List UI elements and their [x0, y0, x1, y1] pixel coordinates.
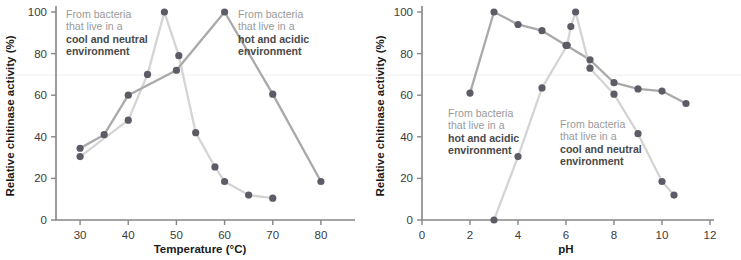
data-point-hot-acidic — [173, 67, 180, 74]
x-axis-tick-label: 70 — [266, 229, 279, 241]
data-point-hot-acidic — [221, 8, 228, 15]
y-axis-tick-label: 20 — [400, 172, 413, 184]
data-point-cool-neutral — [567, 23, 574, 30]
y-axis-tick-label: 60 — [34, 89, 47, 101]
annotation-line: From bacteria — [448, 107, 513, 119]
data-point-hot-acidic — [682, 100, 689, 107]
data-point-cool-neutral — [175, 52, 182, 59]
data-point-hot-acidic — [125, 92, 132, 99]
x-axis-tick-label: 40 — [122, 229, 135, 241]
data-point-cool-neutral — [670, 191, 677, 198]
figure-container: 020406080100304050607080Temperature (°C)… — [0, 0, 741, 260]
data-point-hot-acidic — [538, 27, 545, 34]
data-point-cool-neutral — [161, 8, 168, 15]
annotation-line: From bacteria — [560, 118, 625, 130]
x-axis-title: pH — [558, 243, 573, 255]
y-axis-tick-label: 80 — [34, 48, 47, 60]
y-axis-tick-label: 20 — [34, 172, 47, 184]
chart-panel-ph: 020406080100024681012pHRelative chitinas… — [370, 0, 741, 260]
data-point-cool-neutral — [514, 153, 521, 160]
x-axis-tick-label: 8 — [611, 229, 617, 241]
annotation-line: hot and acidic — [448, 132, 519, 144]
annotation-line: that live in a — [66, 20, 123, 32]
data-point-cool-neutral — [221, 178, 228, 185]
annotation-line: environment — [238, 45, 302, 57]
y-axis-tick-label: 40 — [400, 131, 413, 143]
data-point-cool-neutral — [610, 91, 617, 98]
data-point-hot-acidic — [317, 178, 324, 185]
data-point-cool-neutral — [634, 130, 641, 137]
x-axis-tick-label: 10 — [656, 229, 669, 241]
x-axis-title: Temperature (°C) — [154, 243, 247, 255]
data-point-cool-neutral — [76, 153, 83, 160]
data-point-cool-neutral — [572, 8, 579, 15]
data-point-cool-neutral — [658, 178, 665, 185]
data-point-hot-acidic — [490, 8, 497, 15]
y-axis-title: Relative chitinase activity (%) — [4, 35, 16, 196]
x-axis-tick-label: 50 — [170, 229, 183, 241]
data-point-hot-acidic — [634, 85, 641, 92]
annotation-cool-neutral: From bacteriathat live in acool and neut… — [66, 8, 148, 57]
data-point-hot-acidic — [76, 145, 83, 152]
annotation-hot-acidic: From bacteriathat live in ahot and acidi… — [238, 8, 309, 57]
annotation-line: cool and neutral — [560, 143, 642, 155]
data-point-cool-neutral — [144, 71, 151, 78]
data-point-cool-neutral — [192, 129, 199, 136]
y-axis-tick-label: 60 — [400, 89, 413, 101]
x-axis-tick-label: 30 — [74, 229, 87, 241]
temperature-chart-svg: 020406080100304050607080Temperature (°C)… — [0, 0, 370, 260]
annotation-line: cool and neutral — [66, 33, 148, 45]
series-line-cool-neutral — [494, 12, 674, 220]
annotation-hot-acidic: From bacteriathat live in ahot and acidi… — [448, 107, 519, 156]
data-point-cool-neutral — [586, 65, 593, 72]
data-point-hot-acidic — [269, 91, 276, 98]
data-point-cool-neutral — [490, 216, 497, 223]
x-axis-tick-label: 0 — [419, 229, 425, 241]
annotation-line: From bacteria — [238, 8, 303, 20]
x-axis-tick-label: 2 — [467, 229, 473, 241]
x-axis-tick-label: 6 — [563, 229, 569, 241]
y-axis-tick-label: 0 — [41, 214, 47, 226]
annotation-line: environment — [66, 45, 130, 57]
annotation-line: hot and acidic — [238, 33, 309, 45]
ph-chart-svg: 020406080100024681012pHRelative chitinas… — [370, 0, 741, 260]
data-point-cool-neutral — [125, 117, 132, 124]
y-axis-tick-label: 80 — [400, 48, 413, 60]
x-axis-tick-label: 12 — [704, 229, 717, 241]
data-point-cool-neutral — [564, 42, 571, 49]
data-point-hot-acidic — [610, 79, 617, 86]
annotation-line: From bacteria — [66, 8, 131, 20]
chart-panel-temperature: 020406080100304050607080Temperature (°C)… — [0, 0, 370, 260]
data-point-cool-neutral — [538, 84, 545, 91]
x-axis-tick-label: 60 — [218, 229, 231, 241]
data-point-hot-acidic — [658, 87, 665, 94]
data-point-hot-acidic — [466, 90, 473, 97]
y-axis-tick-label: 40 — [34, 131, 47, 143]
annotation-line: that live in a — [448, 119, 505, 131]
data-point-cool-neutral — [245, 191, 252, 198]
data-point-hot-acidic — [514, 21, 521, 28]
y-axis-tick-label: 100 — [394, 6, 413, 18]
data-point-hot-acidic — [586, 56, 593, 63]
annotation-line: environment — [448, 144, 512, 156]
y-axis-title: Relative chitinase activity (%) — [374, 35, 386, 196]
data-point-hot-acidic — [101, 131, 108, 138]
x-axis-tick-label: 4 — [515, 229, 522, 241]
annotation-line: environment — [560, 155, 624, 167]
y-axis-tick-label: 0 — [407, 214, 413, 226]
annotation-cool-neutral: From bacteriathat live in acool and neut… — [560, 118, 642, 167]
data-point-cool-neutral — [269, 195, 276, 202]
y-axis-tick-label: 100 — [28, 6, 47, 18]
data-point-cool-neutral — [211, 163, 218, 170]
annotation-line: that live in a — [560, 130, 617, 142]
x-axis-tick-label: 80 — [315, 229, 328, 241]
annotation-line: that live in a — [238, 20, 295, 32]
